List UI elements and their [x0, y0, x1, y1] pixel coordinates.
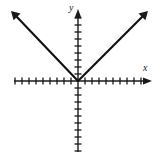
coordinate-plane [0, 0, 162, 163]
graph-figure: x y [0, 0, 162, 163]
y-axis-label: y [69, 3, 73, 13]
x-axis-label: x [143, 63, 147, 73]
left-branch [16, 16, 78, 81]
x-axis-group [14, 78, 152, 85]
y-axis-arrowhead [75, 9, 82, 18]
right-branch [78, 16, 143, 81]
x-axis-arrowhead [143, 78, 152, 85]
